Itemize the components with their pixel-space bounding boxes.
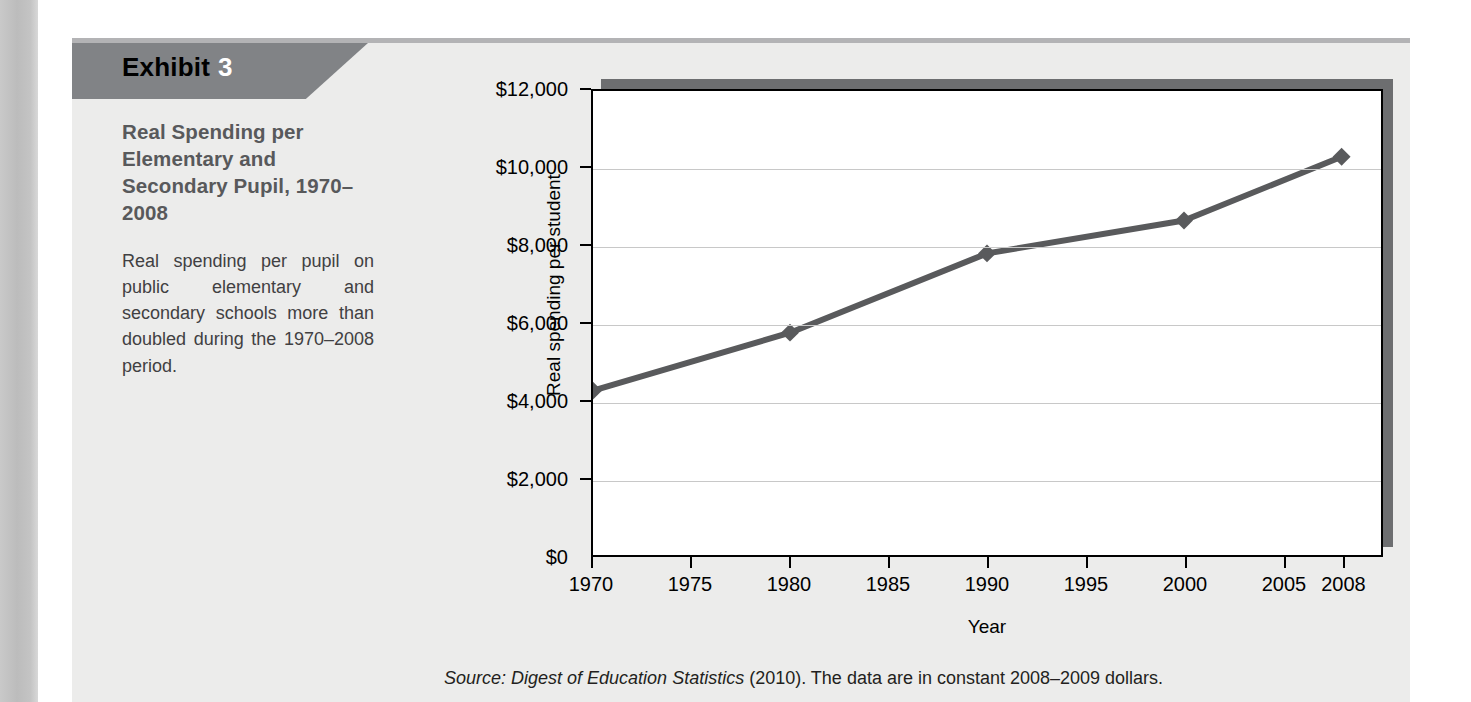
y-tick-label: $8,000 [507,234,568,257]
x-tick-mark [1284,557,1286,568]
x-tick-mark [1185,557,1187,568]
y-tick-mark [580,244,591,246]
page-inner-margin [38,0,72,702]
x-tick-label: 1990 [965,573,1010,596]
page-gutter [0,0,38,702]
x-tick-label: 1970 [569,573,614,596]
series-line [593,157,1342,391]
y-tick-mark [580,166,591,168]
y-tick-label: $6,000 [507,312,568,335]
x-tick-label: 1975 [668,573,713,596]
x-tick-mark [888,557,890,568]
x-tick-label: 1980 [767,573,812,596]
exhibit-description: Real spending per pupil on public elemen… [122,248,374,378]
data-point-marker [1333,148,1351,166]
y-tick-mark [580,478,591,480]
x-axis-label: Year [591,616,1383,638]
x-tick-mark [987,557,989,568]
x-tick-mark [789,557,791,568]
exhibit-caption-column: Real Spending per Elementary and Seconda… [122,118,374,379]
y-tick-label: $2,000 [507,468,568,491]
data-point-marker [1175,212,1193,230]
chart: Real spending per student $0$2,000$4,000… [444,60,1424,660]
gridline [593,481,1381,482]
exhibit-tab-number: 3 [218,52,233,82]
x-tick-mark [690,557,692,568]
y-tick-mark [580,400,591,402]
page-right-margin [1410,0,1471,702]
y-axis-ticks: $0$2,000$4,000$6,000$8,000$10,000$12,000 [444,60,580,580]
y-tick-label: $0 [546,546,568,569]
x-tick-mark [1343,557,1345,568]
exhibit-tab-word: Exhibit [122,52,210,82]
gridline [593,247,1381,248]
series-line-chart [593,91,1381,555]
exhibit-title: Real Spending per Elementary and Seconda… [122,118,374,226]
gridline [593,403,1381,404]
y-tick-mark [580,322,591,324]
x-axis-ticks: 197019751980198519901995200020052008 [591,557,1383,569]
x-tick-mark [1086,557,1088,568]
x-tick-label: 2008 [1321,573,1366,596]
gridline [593,169,1381,170]
data-point-marker [591,382,602,400]
y-tick-mark [580,88,591,90]
gridline [593,325,1381,326]
source-note: Source: Digest of Education Statistics (… [444,668,1163,689]
x-tick-label: 2000 [1163,573,1208,596]
y-tick-label: $12,000 [496,78,568,101]
x-tick-label: 2005 [1262,573,1307,596]
x-tick-label: 1985 [866,573,911,596]
source-note-italic: Source: Digest of Education Statistics [444,668,744,688]
y-tick-label: $10,000 [496,156,568,179]
plot-area [591,89,1383,557]
x-tick-label: 1995 [1064,573,1109,596]
y-tick-label: $4,000 [507,390,568,413]
data-point-marker [781,324,799,342]
x-tick-mark [591,557,593,568]
exhibit-tab-title: Exhibit3 [122,52,233,83]
source-note-rest: (2010). The data are in constant 2008–20… [744,668,1163,688]
